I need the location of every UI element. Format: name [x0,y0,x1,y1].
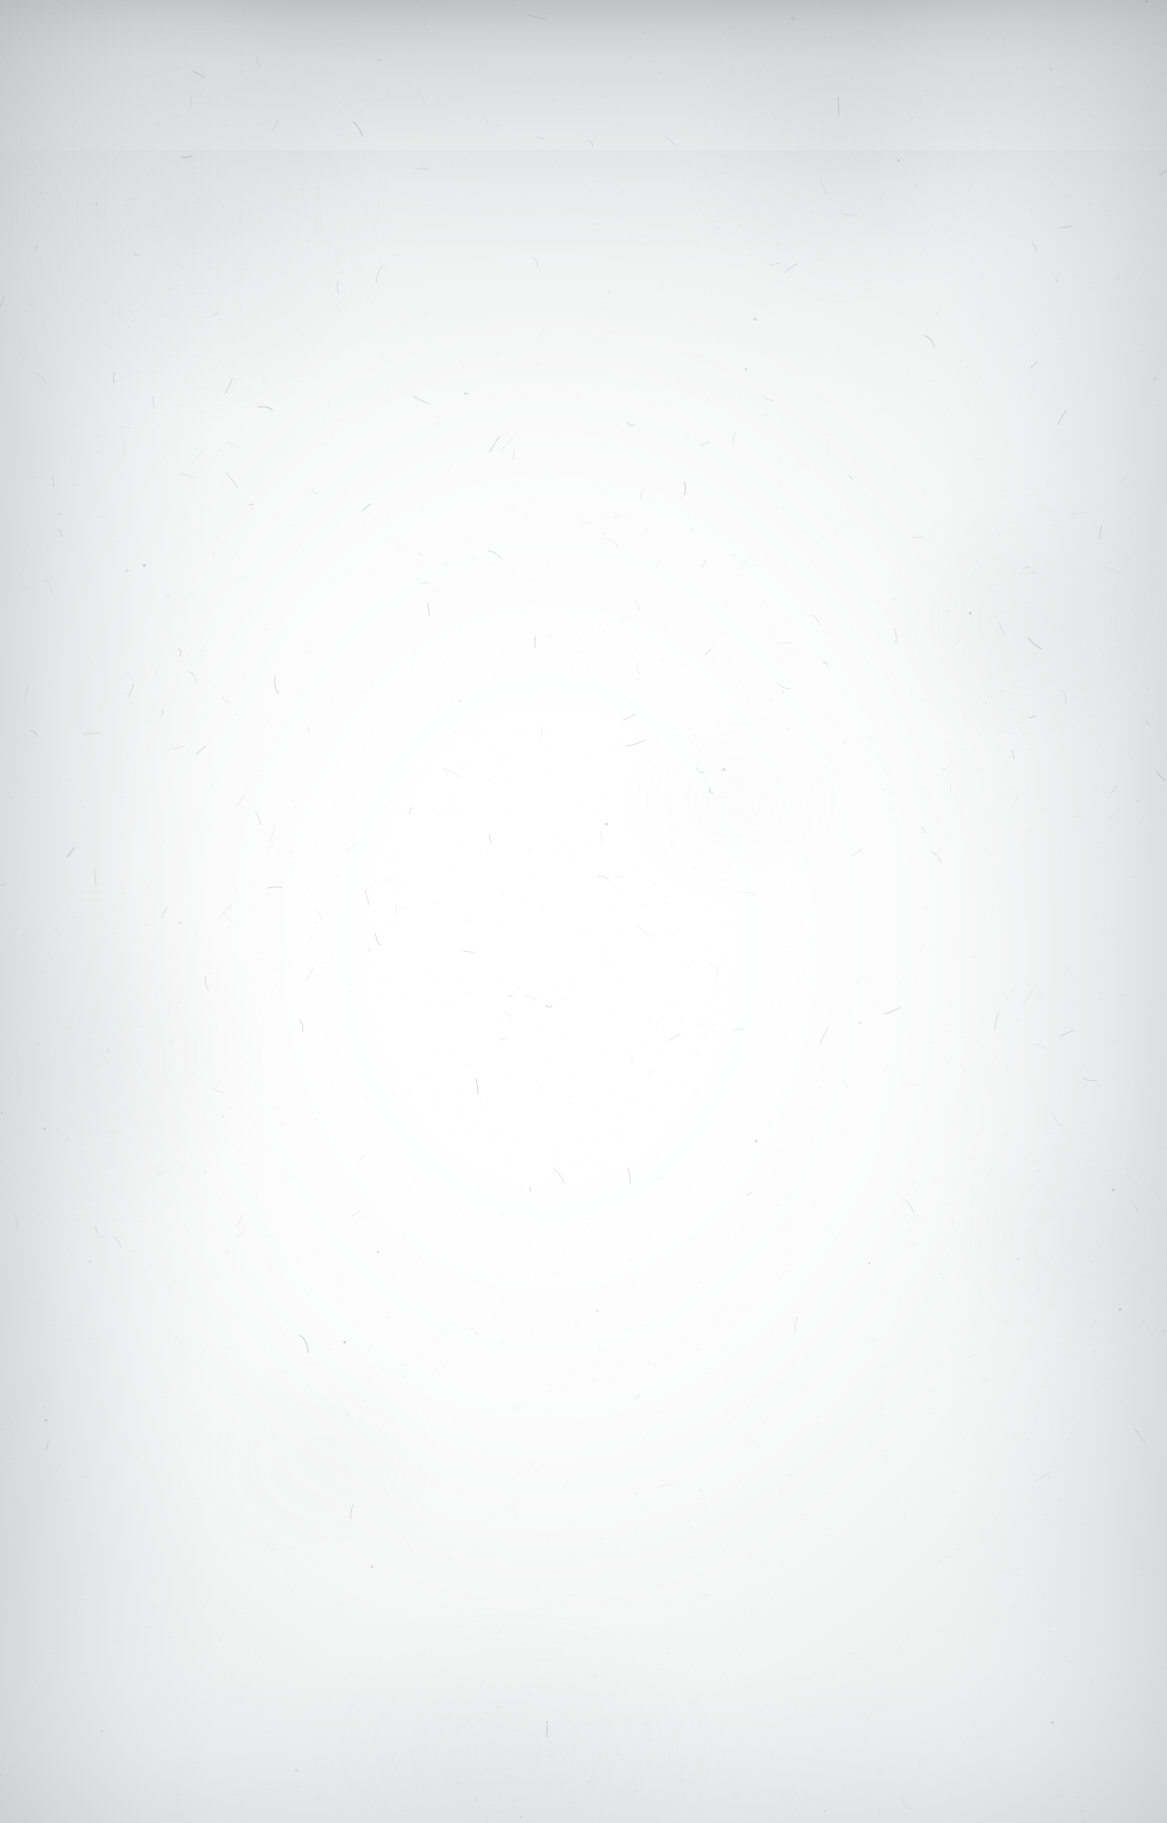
corner-vignette [0,0,1167,1823]
scanned-page: Blank scanned sheet of paper. No text, h… [0,0,1167,1823]
